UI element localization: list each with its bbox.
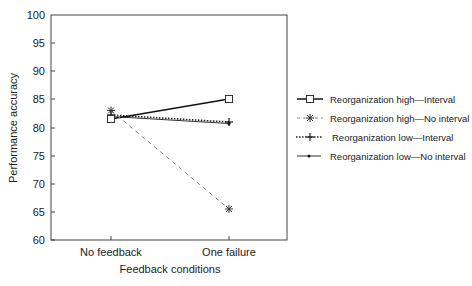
plus-marker-icon bbox=[306, 133, 314, 141]
series-reorg-high-interval bbox=[108, 96, 233, 123]
y-tick-label: 80 bbox=[33, 122, 45, 134]
plot-area bbox=[51, 15, 287, 240]
series-reorg-low-interval bbox=[107, 111, 233, 126]
line-chart: 60 65 70 75 80 85 90 95 100 Performance … bbox=[0, 0, 472, 286]
legend-label: Reorganization high—No interval bbox=[330, 113, 469, 124]
x-axis: No feedback One failure bbox=[80, 236, 256, 258]
star-marker-icon bbox=[306, 114, 314, 122]
y-tick-label: 70 bbox=[33, 178, 45, 190]
legend: Reorganization high—Interval Reorganizat… bbox=[296, 94, 469, 162]
x-tick-label: One failure bbox=[202, 246, 256, 258]
square-marker-icon bbox=[226, 96, 233, 103]
legend-label: Reorganization high—Interval bbox=[330, 94, 455, 105]
x-axis-title: Feedback conditions bbox=[120, 263, 221, 275]
square-marker-icon bbox=[307, 96, 314, 103]
legend-label: Reorganization low—Interval bbox=[332, 132, 453, 143]
star-marker-icon bbox=[107, 107, 115, 115]
y-tick-label: 95 bbox=[33, 37, 45, 49]
dot-marker-icon bbox=[308, 155, 311, 158]
y-tick-label: 75 bbox=[33, 150, 45, 162]
y-tick-label: 90 bbox=[33, 65, 45, 77]
plus-marker-icon bbox=[107, 111, 233, 126]
star-marker-icon bbox=[225, 205, 233, 213]
legend-item: Reorganization low—No interval bbox=[297, 151, 466, 162]
y-tick-label: 85 bbox=[33, 93, 45, 105]
legend-item: Reorganization low—Interval bbox=[296, 132, 453, 143]
y-axis-title: Performance accuracy bbox=[7, 72, 19, 183]
square-marker-icon bbox=[108, 116, 115, 123]
dot-marker-icon bbox=[227, 122, 230, 125]
x-tick-label: No feedback bbox=[80, 246, 142, 258]
y-tick-label: 100 bbox=[27, 9, 45, 21]
y-tick-label: 65 bbox=[33, 206, 45, 218]
legend-item: Reorganization high—No interval bbox=[297, 113, 469, 124]
legend-item: Reorganization high—Interval bbox=[297, 94, 455, 105]
legend-label: Reorganization low—No interval bbox=[330, 151, 466, 162]
y-tick-label: 60 bbox=[33, 234, 45, 246]
